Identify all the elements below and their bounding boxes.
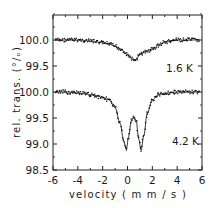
x-tick-label: 6 — [199, 174, 206, 186]
y-tick-label: 100.0 — [19, 86, 49, 98]
y-tick-label: 98.5 — [26, 164, 49, 176]
y-axis-title: rel. trans. (°/ₒ) — [11, 46, 22, 138]
y-tick-label: 99.5 — [26, 60, 49, 72]
annotation-4-2K: 4.2 K — [172, 135, 200, 147]
y-tick-label: 99.5 — [26, 112, 49, 124]
annotation-1-6K: 1.6 K — [166, 62, 194, 74]
x-tick-label: 0 — [124, 174, 131, 186]
mossbauer-spectrum-chart: 100.099.5100.099.599.098.5 -6-4-20246 1.… — [0, 0, 215, 208]
x-tick-label: 4 — [174, 174, 181, 186]
y-axis-ticks: 100.099.5100.099.599.098.5 — [19, 14, 202, 176]
fit-curve — [55, 40, 199, 61]
x-axis-title: velocity ( m m / s ) — [69, 189, 187, 200]
y-tick-label: 100.0 — [19, 34, 49, 46]
x-tick-label: -6 — [48, 174, 59, 186]
x-tick-label: 2 — [149, 174, 156, 186]
x-tick-label: -2 — [97, 174, 107, 186]
y-tick-label: 99.0 — [26, 138, 49, 150]
x-tick-label: -4 — [73, 174, 84, 186]
